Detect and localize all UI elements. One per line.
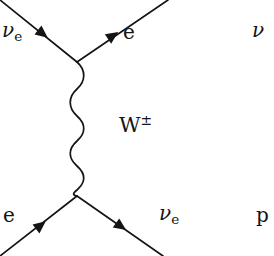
label-clipped-proton: p xyxy=(256,205,269,225)
label-outgoing-neutrino-symbol: ν xyxy=(159,201,171,225)
label-incoming-neutrino-symbol: ν xyxy=(2,18,14,42)
label-outgoing-electron: e xyxy=(123,22,135,42)
label-outgoing-neutrino: νe xyxy=(159,203,179,227)
label-w-boson-superscript: ± xyxy=(141,112,153,128)
label-clipped-proton-symbol: p xyxy=(256,203,269,227)
label-outgoing-neutrino-subscript: e xyxy=(171,211,179,227)
label-clipped-neutrino: ν xyxy=(252,20,264,40)
label-incoming-electron-symbol: e xyxy=(3,203,15,227)
label-w-boson: W± xyxy=(119,114,152,136)
label-incoming-neutrino: νe xyxy=(2,20,22,44)
label-incoming-neutrino-subscript: e xyxy=(14,28,22,44)
arrowhead-outgoing-neutrino xyxy=(113,218,130,234)
label-clipped-neutrino-symbol: ν xyxy=(252,18,264,42)
outgoing-neutrino-line xyxy=(77,196,163,256)
label-w-boson-symbol: W xyxy=(119,113,141,137)
label-outgoing-electron-symbol: e xyxy=(123,20,135,44)
w-boson-wavy-propagator xyxy=(70,62,84,196)
label-incoming-electron: e xyxy=(3,205,15,225)
feynman-diagram-canvas: νe e W± e νe ν p xyxy=(0,0,274,256)
